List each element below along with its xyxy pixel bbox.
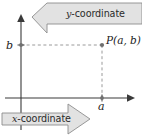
y-axis-arrowhead [17,14,25,22]
guide-lines [21,45,102,98]
x-axis-arrowhead [127,94,135,102]
x-coordinate-callout[interactable]: x-coordinate [2,104,90,134]
point-label: P(a, b) [105,34,141,46]
y-intercept-dot [19,43,23,47]
x-axis [5,94,135,102]
point-p-dot [100,43,104,47]
x-callout-label: x-coordinate [12,113,71,124]
y-coordinate-callout[interactable]: y-coordinate [32,3,142,33]
diagram-canvas: y-coordinate x-coordinate b a P(a, b) [0,0,142,140]
y-callout-label: y-coordinate [65,8,125,19]
coordinate-diagram: y-coordinate x-coordinate b a P(a, b) [0,0,142,140]
y-value-label: b [6,39,13,52]
x-value-label: a [98,100,105,113]
